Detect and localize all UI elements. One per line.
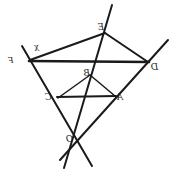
perspective-rays	[22, 5, 168, 168]
segment-ED	[105, 33, 148, 62]
segment-CA	[57, 96, 116, 97]
vertex-label-E: E	[98, 22, 104, 32]
ray-O-A-D	[60, 40, 168, 160]
vertex-label-D: D	[151, 62, 158, 72]
figure-canvas	[0, 0, 176, 171]
segment-BA	[90, 75, 115, 96]
segment-FE	[30, 33, 105, 60]
vertex-label-F: F	[8, 56, 14, 65]
vertex-label-C: C	[45, 92, 52, 102]
vertex-label-B: B	[84, 68, 90, 78]
vertex-label-O: O	[66, 134, 73, 144]
outer-triangle-FED	[29, 33, 149, 62]
vertex-label-A: A	[117, 92, 123, 102]
geometry-figure: F X E D B C A O	[0, 0, 176, 171]
segment-FD	[29, 61, 149, 62]
vertex-label-X: X	[34, 44, 40, 53]
